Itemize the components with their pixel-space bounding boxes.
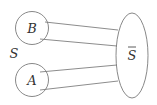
node-b-label: B bbox=[26, 21, 37, 36]
set-s-label: S bbox=[10, 46, 19, 61]
complement-label: S bbox=[128, 48, 137, 63]
node-a: A bbox=[16, 64, 49, 97]
node-b: B bbox=[16, 12, 49, 45]
edge-a-lower bbox=[40, 81, 118, 90]
edge-b-upper bbox=[45, 22, 118, 30]
edge-a-upper bbox=[40, 65, 117, 72]
edges bbox=[40, 22, 118, 90]
node-a-label: A bbox=[26, 73, 36, 88]
edge-b-lower bbox=[40, 39, 117, 46]
node-s-complement: S bbox=[116, 13, 148, 98]
cut-diagram: B A S S bbox=[0, 0, 157, 105]
